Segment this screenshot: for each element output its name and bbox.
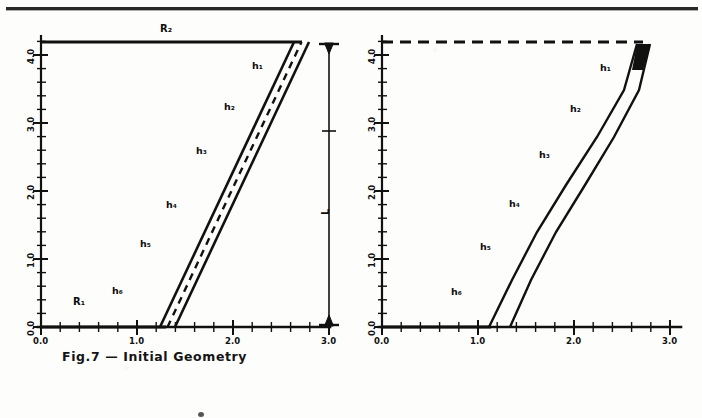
label-h5: h₅ [140,238,151,249]
label-R1: R₁ [73,296,85,307]
label-h1: h₁ [252,60,263,71]
label-h3: h₃ [539,149,550,160]
y-tick-label-1: 1.0 [367,253,377,268]
figure-optimal-design: 0.0 1.0 2.0 3.0 4.0 0.0 1.0 2.0 3.0 h₁ h… [351,0,702,418]
label-h6: h₆ [112,285,123,296]
x-tick-label-3: 3.0 [321,336,336,346]
wall-centerline-dashed [168,42,302,327]
label-h4: h₄ [509,198,520,209]
y-tick-label-4: 4.0 [26,49,36,64]
x-tick-label-1: 1.0 [470,336,485,346]
plot-canvas-fig8 [351,0,702,418]
x-tick-label-2: 2.0 [225,336,240,346]
dimension-line-L [319,43,339,326]
label-h2: h₂ [570,103,581,114]
y-tick-label-3: 3.0 [367,117,377,132]
y-tick-label-3: 3.0 [26,117,36,132]
label-h1: h₁ [600,62,611,73]
x-tick-label-0: 0.0 [374,336,389,346]
y-tick-label-0: 0.0 [367,321,377,336]
label-h4: h₄ [166,199,177,210]
label-h6: h₆ [451,286,462,297]
label-R2: R₂ [160,23,172,34]
shell-wall-band-fig7 [160,42,309,327]
y-tick-label-2: 2.0 [26,185,36,200]
wall-outer-surface [175,42,309,327]
label-h2: h₂ [224,101,235,112]
label-h3: h₃ [196,145,207,156]
y-minor-ticks-fig7 [37,41,46,313]
y-tick-label-2: 2.0 [367,185,377,200]
figure-caption-fig7: Fig.7 — Initial Geometry [62,349,247,364]
y-tick-label-1: 1.0 [26,253,36,268]
shell-wall-band-fig8 [489,44,650,327]
label-h5: h₅ [480,241,491,252]
y-tick-label-0: 0.0 [26,321,36,336]
wall-inner-surface [160,42,294,327]
y-minor-ticks-fig8 [378,41,387,313]
x-tick-label-0: 0.0 [33,336,48,346]
wall-outer-surface [510,44,650,327]
figure-initial-geometry: 0.0 1.0 2.0 3.0 4.0 0.0 1.0 2.0 3.0 R₂ R… [0,0,351,418]
label-L-dimension: L [320,209,331,215]
x-tick-label-3: 3.0 [662,336,677,346]
x-tick-label-1: 1.0 [129,336,144,346]
x-tick-label-2: 2.0 [566,336,581,346]
axis-lines-fig7 [38,36,330,328]
y-tick-label-4: 4.0 [367,49,377,64]
wall-inner-surface [489,44,637,327]
